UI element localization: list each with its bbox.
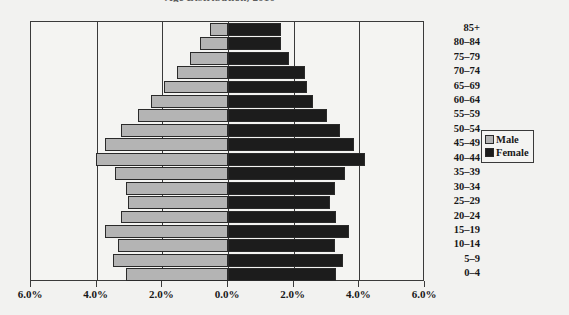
bar-female-75–79 xyxy=(228,52,289,65)
bar-female-0–4 xyxy=(228,268,336,281)
x-axis-tick-label: 4.0% xyxy=(83,288,108,300)
age-label-20–24: 20–24 xyxy=(454,211,480,221)
bar-male-40–44 xyxy=(96,153,228,166)
bar-male-75–79 xyxy=(190,52,228,65)
bar-row xyxy=(31,81,423,94)
bar-female-85+ xyxy=(228,23,281,36)
bar-male-85+ xyxy=(210,23,228,36)
x-axis-tick xyxy=(227,281,228,287)
bar-row xyxy=(31,95,423,108)
age-label-30–34: 30–34 xyxy=(454,182,480,192)
x-axis-tick xyxy=(30,281,31,287)
bar-row xyxy=(31,211,423,224)
bar-row xyxy=(31,153,423,166)
age-label-55–59: 55–59 xyxy=(454,109,480,119)
x-axis-tick-label: 4.0% xyxy=(346,288,371,300)
bar-row xyxy=(31,167,423,180)
bar-male-25–29 xyxy=(128,196,228,209)
age-label-5–9: 5–9 xyxy=(464,254,480,264)
bar-row xyxy=(31,182,423,195)
bar-row xyxy=(31,268,423,281)
age-label-35–39: 35–39 xyxy=(454,167,480,177)
bar-female-25–29 xyxy=(228,196,330,209)
age-label-50–54: 50–54 xyxy=(454,124,480,134)
age-label-0–4: 0–4 xyxy=(464,268,480,278)
age-label-80–84: 80–84 xyxy=(454,37,480,47)
bar-male-5–9 xyxy=(113,254,228,267)
bar-row xyxy=(31,138,423,151)
bar-male-80–84 xyxy=(200,37,228,50)
bar-male-30–34 xyxy=(126,182,228,195)
bar-male-65–69 xyxy=(164,81,228,94)
bar-female-35–39 xyxy=(228,167,345,180)
chart-title: Age Distribution, 2010 xyxy=(0,0,440,2)
x-axis-tick xyxy=(424,281,425,287)
legend-swatch-female xyxy=(485,148,494,157)
x-axis-tick xyxy=(358,281,359,287)
bar-female-50–54 xyxy=(228,124,340,137)
chart-legend: MaleFemale xyxy=(481,130,534,163)
bar-female-65–69 xyxy=(228,81,307,94)
legend-item-male: Male xyxy=(485,133,529,146)
bar-female-60–64 xyxy=(228,95,313,108)
x-axis-tick-label: 6.0% xyxy=(18,288,43,300)
x-axis-tick xyxy=(293,281,294,287)
bar-male-20–24 xyxy=(121,211,228,224)
x-axis-tick xyxy=(96,281,97,287)
bar-row xyxy=(31,239,423,252)
bar-female-55–59 xyxy=(228,109,327,122)
bar-row xyxy=(31,254,423,267)
bar-male-60–64 xyxy=(151,95,228,108)
bar-female-40–44 xyxy=(228,153,365,166)
age-label-40–44: 40–44 xyxy=(454,153,480,163)
legend-item-female: Female xyxy=(485,146,529,159)
x-axis: 6.0%4.0%2.0%0.0%2.0%4.0%6.0% xyxy=(0,281,569,315)
bar-female-15–19 xyxy=(228,225,349,238)
bar-row xyxy=(31,109,423,122)
age-label-45–49: 45–49 xyxy=(454,138,480,148)
bar-female-10–14 xyxy=(228,239,335,252)
plot-area xyxy=(30,21,424,281)
age-label-60–64: 60–64 xyxy=(454,95,480,105)
bar-male-15–19 xyxy=(105,225,228,238)
x-axis-tick xyxy=(161,281,162,287)
bar-row xyxy=(31,37,423,50)
bar-row xyxy=(31,124,423,137)
x-axis-tick-label: 2.0% xyxy=(149,288,174,300)
age-label-75–79: 75–79 xyxy=(454,52,480,62)
bar-female-5–9 xyxy=(228,254,343,267)
bar-female-70–74 xyxy=(228,66,305,79)
population-pyramid-chart: Age Distribution, 2010 85+80–8475–7970–7… xyxy=(0,0,569,315)
bars-layer xyxy=(31,22,423,280)
bar-row xyxy=(31,196,423,209)
bar-female-30–34 xyxy=(228,182,335,195)
x-axis-tick-label: 2.0% xyxy=(280,288,305,300)
age-label-10–14: 10–14 xyxy=(454,239,480,249)
bar-row xyxy=(31,52,423,65)
x-axis-tick-label: 0.0% xyxy=(215,288,240,300)
age-label-15–19: 15–19 xyxy=(454,225,480,235)
bar-row xyxy=(31,225,423,238)
bar-male-35–39 xyxy=(115,167,228,180)
age-label-85+: 85+ xyxy=(464,23,480,33)
bar-female-80–84 xyxy=(228,37,281,50)
bar-male-45–49 xyxy=(105,138,228,151)
legend-swatch-male xyxy=(485,135,494,144)
age-label-70–74: 70–74 xyxy=(454,66,480,76)
bar-row xyxy=(31,23,423,36)
bar-female-45–49 xyxy=(228,138,354,151)
bar-male-70–74 xyxy=(177,66,228,79)
x-axis-tick-label: 6.0% xyxy=(412,288,437,300)
age-group-axis-labels: 85+80–8475–7970–7465–6960–6455–5950–5445… xyxy=(432,21,488,281)
legend-label-male: Male xyxy=(496,134,519,145)
legend-label-female: Female xyxy=(496,147,529,158)
bar-row xyxy=(31,66,423,79)
bar-male-50–54 xyxy=(121,124,228,137)
age-label-25–29: 25–29 xyxy=(454,196,480,206)
bar-male-10–14 xyxy=(118,239,228,252)
bar-female-20–24 xyxy=(228,211,336,224)
bar-male-0–4 xyxy=(126,268,228,281)
bar-male-55–59 xyxy=(138,109,228,122)
age-label-65–69: 65–69 xyxy=(454,81,480,91)
